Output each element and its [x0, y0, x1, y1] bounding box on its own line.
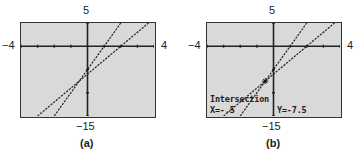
graph-panel-b: 5 −4 4 Intersection X=-.5 Y=-7.5 −15 (b)	[0, 0, 363, 157]
y-readout: Y=-7.5	[277, 106, 307, 115]
calculator-screen: Intersection X=-.5 Y=-7.5	[206, 22, 342, 118]
xmax-label: 4	[347, 40, 353, 51]
x-readout: X=-.5	[210, 106, 235, 115]
ymax-label: 5	[269, 5, 275, 16]
xmin-label: −4	[188, 40, 201, 51]
caption: (b)	[266, 138, 280, 149]
intersection-label: Intersection	[210, 95, 269, 104]
ymin-label: −15	[262, 121, 281, 132]
